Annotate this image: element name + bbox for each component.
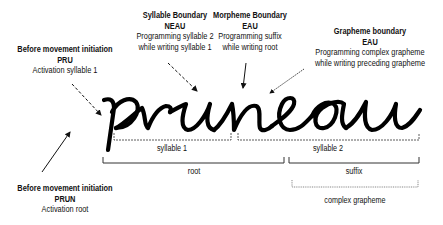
label-code: PRU: [13, 55, 116, 66]
label-suffix: suffix: [320, 166, 389, 176]
label-complex-grapheme: complex grapheme: [312, 195, 398, 205]
label-syllable1: syllable 1: [138, 143, 207, 153]
label-root: root: [160, 166, 229, 176]
arrow-grapheme-boundary: [270, 69, 304, 93]
label-title: Before movement initiation: [13, 44, 116, 55]
bracket-syllable1: [114, 133, 231, 140]
bracket-root: [103, 157, 284, 163]
label-desc1: Programming suffix: [207, 31, 293, 42]
label-before-syllable: Before movement initiation PRU Activatio…: [13, 44, 116, 76]
letter-a: [312, 102, 346, 128]
label-desc2: while writing root: [207, 42, 293, 53]
label-code: EAU: [310, 37, 430, 48]
label-desc2: while writing preceding grapheme: [310, 58, 430, 69]
bracket-complex-grapheme: [292, 180, 418, 187]
arrow-syllable-boundary: [168, 63, 197, 91]
letter-u: [170, 104, 214, 130]
label-desc: Activation root: [13, 204, 116, 215]
label-desc1: Programming complex grapheme: [310, 47, 430, 58]
label-syllable2: syllable 2: [294, 143, 363, 153]
arrow-before-root: [42, 132, 70, 172]
label-title: Grapheme boundary: [310, 26, 430, 37]
label-before-root: Before movement initiation PRUN Activati…: [13, 183, 116, 215]
label-title: Morpheme Boundary: [207, 10, 293, 21]
arrow-morpheme-boundary: [243, 63, 246, 88]
label-code: EAU: [207, 21, 293, 32]
letter-u2: [346, 102, 420, 130]
letter-n: [214, 104, 272, 130]
letter-e: [272, 98, 312, 130]
bracket-syllable2: [238, 133, 419, 140]
label-morpheme-boundary: Morpheme Boundary EAU Programming suffix…: [207, 10, 293, 52]
label-title: Before movement initiation: [13, 183, 116, 194]
bracket-suffix: [289, 157, 419, 163]
label-desc: Activation syllable 1: [13, 65, 116, 76]
arrow-before-syllable: [72, 84, 101, 115]
label-grapheme-boundary: Grapheme boundary EAU Programming comple…: [310, 26, 430, 68]
letter-r: [116, 106, 171, 128]
label-code: PRUN: [13, 194, 116, 205]
